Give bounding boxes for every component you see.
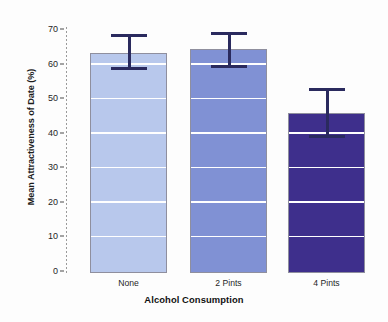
gridline [289,236,364,238]
gridline [91,98,166,100]
gridline [289,167,364,169]
error-bar-cap-top [309,88,345,91]
error-bar-cap-bottom [211,65,247,68]
gridline [91,167,166,169]
y-tick-mark [60,167,64,168]
error-bar-cap-bottom [309,135,345,138]
x-tick-label: 4 Pints [282,278,372,288]
y-tick-label: 30 [34,162,58,172]
x-tick-label: 2 Pints [184,278,274,288]
gridline [91,201,166,203]
plot-area [66,18,382,273]
gridline [191,167,266,169]
error-bar [326,88,327,138]
bar[interactable] [190,49,267,273]
y-tick-label: 20 [34,197,58,207]
y-tick-mark [60,236,64,237]
error-bar-stem [128,34,131,70]
gridline [191,236,266,238]
bar[interactable] [90,53,167,273]
x-axis-title: Alcohol Consumption [0,294,388,305]
y-tick-mark [60,271,64,272]
gridline [91,236,166,238]
y-tick-label: 60 [34,59,58,69]
y-tick-label: 40 [34,128,58,138]
error-bar-cap-bottom [111,67,147,70]
y-tick-mark [60,201,64,202]
error-bar [228,32,229,68]
y-tick-mark [60,98,64,99]
x-tick-label: None [84,278,174,288]
gridline [191,98,266,100]
y-tick-mark [60,63,64,64]
y-tick-mark [60,132,64,133]
y-tick-label: 70 [34,24,58,34]
y-tick-mark [60,29,64,30]
gridline [191,132,266,134]
gridline [191,201,266,203]
error-bar-stem [326,88,329,138]
error-bar [128,34,129,70]
error-bar-stem [228,32,231,68]
error-bar-cap-top [111,34,147,37]
gridline [289,201,364,203]
y-tick-label: 50 [34,93,58,103]
y-axis-tick-labels: 010203040506070 [34,0,58,322]
gridline [91,132,166,134]
error-bar-cap-top [211,32,247,35]
bar-chart: Mean Attractiveness of Date (%) 01020304… [0,0,388,322]
y-tick-label: 0 [34,266,58,276]
y-tick-label: 10 [34,231,58,241]
